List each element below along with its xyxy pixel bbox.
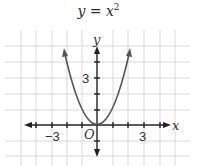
x-tick-label-3: 3 (139, 129, 146, 144)
y-axis-label: y (92, 32, 101, 47)
y-axis (94, 46, 100, 157)
plot-area: x y O −3 3 3 (0, 0, 197, 166)
origin-label: O (84, 127, 95, 142)
x-axis-label: x (172, 118, 180, 133)
x-tick-label-neg3: −3 (45, 129, 60, 144)
y-tick-label-3: 3 (82, 71, 89, 86)
curve-arrow-right-icon (126, 48, 132, 57)
chart: y = x2 (0, 0, 197, 166)
